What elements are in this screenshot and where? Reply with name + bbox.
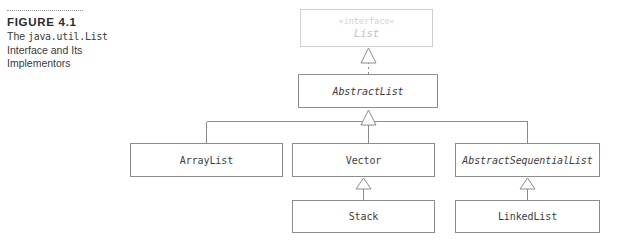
uml-class-diagram: «interface» List AbstractList ArrayList … <box>0 0 626 249</box>
uml-node-stack[interactable]: Stack <box>292 200 435 233</box>
arrowhead-realization-list <box>361 48 376 63</box>
uml-node-linkedlist[interactable]: LinkedList <box>455 200 600 233</box>
uml-label-arraylist: ArrayList <box>180 154 233 167</box>
uml-label-linkedlist: LinkedList <box>498 210 557 223</box>
uml-label-abstractlist: AbstractList <box>332 85 403 98</box>
arrowhead-generalization-abstractsequentiallist <box>520 178 535 189</box>
uml-node-arraylist[interactable]: ArrayList <box>130 143 283 177</box>
uml-label-abstractsequentiallist: AbstractSequentialList <box>462 154 592 167</box>
uml-label-vector: Vector <box>346 154 382 167</box>
uml-stereotype-list: «interface» <box>339 16 395 27</box>
uml-label-stack: Stack <box>349 210 379 223</box>
uml-label-list: List <box>354 27 379 40</box>
arrowhead-generalization-abstractlist <box>361 110 376 125</box>
uml-node-abstractlist[interactable]: AbstractList <box>298 74 438 108</box>
uml-node-list[interactable]: «interface» List <box>300 9 433 47</box>
uml-node-abstractsequentiallist[interactable]: AbstractSequentialList <box>455 143 600 177</box>
arrowhead-generalization-vector <box>356 178 371 189</box>
uml-node-vector[interactable]: Vector <box>292 143 435 177</box>
